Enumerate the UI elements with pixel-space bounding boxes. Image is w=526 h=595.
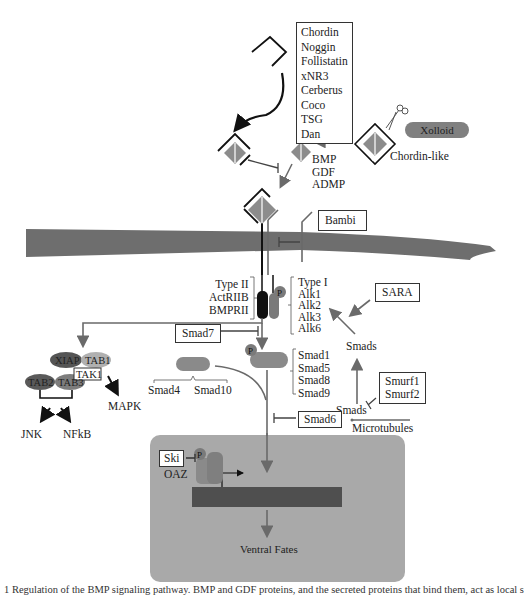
svg-text:P: P: [248, 346, 253, 356]
antagonist-dan: Dan: [301, 127, 348, 142]
antagonist-bound-ligand: [218, 134, 250, 165]
ligand-gdf: GDF: [312, 166, 345, 179]
smad5-label: Smad5: [298, 362, 330, 375]
jnk-arrow: [42, 408, 50, 420]
alk6-label: Alk6: [298, 323, 328, 335]
co-smad-bracket: [154, 376, 227, 383]
smad10-label: Smad10: [194, 384, 232, 397]
xiap-label: XIAP: [55, 354, 80, 367]
dna-bar: [192, 487, 342, 507]
tab2-label: TAB2: [28, 376, 53, 389]
type2-label: Type II: [209, 278, 249, 291]
smad4-label: Smad4: [148, 384, 180, 397]
mapk-label: MAPK: [108, 400, 141, 413]
smad8-label: Smad8: [298, 374, 330, 387]
type1-bracket: [288, 277, 294, 334]
ski-box: Ski: [159, 450, 184, 467]
ligand-to-receptor-arrow: [281, 164, 292, 186]
type1-receptor-labels: Type I Alk1 Alk2 Alk3 Alk6: [298, 277, 328, 335]
antagonists-box: Chordin Noggin Follistatin xNR3 Cerberus…: [296, 22, 353, 144]
tab3-label: TAB3: [58, 376, 83, 389]
microtubules-label: Microtubules: [352, 422, 413, 435]
svg-text:P: P: [197, 450, 202, 460]
smurf2-label: Smurf2: [385, 388, 420, 401]
smurf-box: Smurf1 Smurf2: [379, 372, 426, 404]
sara-box: SARA: [375, 283, 420, 302]
smads-upper-label: Smads: [346, 340, 377, 353]
pathway-diagram: P P: [0, 0, 526, 595]
smad1-label: Smad1: [298, 349, 330, 362]
smad9-label: Smad9: [298, 387, 330, 400]
smad6-inhibition: [274, 413, 296, 423]
co-smad-pill: [176, 357, 210, 371]
ligand-bmp: BMP: [312, 153, 345, 166]
nfkb-arrow: [61, 408, 69, 420]
antagonist-binding-arrow: [236, 73, 283, 129]
antagonist-follistatin: Follistatin: [301, 54, 348, 69]
smurf-inhibition: [366, 398, 376, 409]
r-smad-pill: [250, 352, 288, 368]
ligand-admp: ADMP: [312, 178, 345, 191]
nucleus: [150, 435, 405, 582]
ligand-labels: BMP GDF ADMP: [312, 153, 345, 191]
chordin-free: [252, 37, 286, 66]
antagonist-tsg: TSG: [301, 112, 348, 127]
jnk-label: JNK: [21, 428, 42, 441]
antagonist-chordin: Chordin: [301, 25, 348, 40]
tab1-label: TAB1: [85, 354, 110, 367]
bmprii-label: BMPRII: [209, 304, 249, 317]
mapk-arrow: [108, 376, 117, 393]
r-smad-labels: Smad1 Smad5 Smad8 Smad9: [298, 349, 330, 399]
smads-to-receptor-arrow: [331, 310, 355, 334]
actriib-label: ActRIIB: [209, 291, 249, 304]
nfkb-label: NFkB: [63, 428, 91, 441]
type2-bracket: [250, 277, 257, 319]
smurf1-label: Smurf1: [385, 375, 420, 388]
type1-label: Type I: [298, 277, 328, 289]
svg-text:P: P: [277, 288, 282, 298]
type2-receptor-kinase: [257, 291, 268, 319]
receptor-bound-ligand: [244, 189, 276, 224]
antagonist-noggin: Noggin: [301, 40, 348, 55]
antagonist-coco: Coco: [301, 98, 348, 113]
xolloid-oval: Xolloid: [405, 122, 469, 138]
smad6-box: Smad6: [298, 411, 342, 428]
ventral-fates-label: Ventral Fates: [240, 543, 298, 556]
bambi-box: Bambi: [318, 210, 367, 231]
antagonist-xnr3: xNR3: [301, 69, 348, 84]
antagonist-inhibition: [248, 160, 278, 173]
figure-caption: 1 Regulation of the BMP signaling pathwa…: [4, 584, 524, 595]
chordin-like-label: Chordin-like: [390, 150, 449, 163]
tab-bracket: [40, 390, 72, 398]
type2-receptor-labels: Type II ActRIIB BMPRII: [209, 278, 249, 317]
oaz-label: OAZ: [164, 468, 188, 481]
r-smad-bracket: [290, 349, 296, 394]
antagonist-cerberus: Cerberus: [301, 83, 348, 98]
sara-arrow: [351, 300, 370, 315]
smad7-box: Smad7: [175, 324, 221, 343]
free-ligand: [291, 142, 311, 162]
